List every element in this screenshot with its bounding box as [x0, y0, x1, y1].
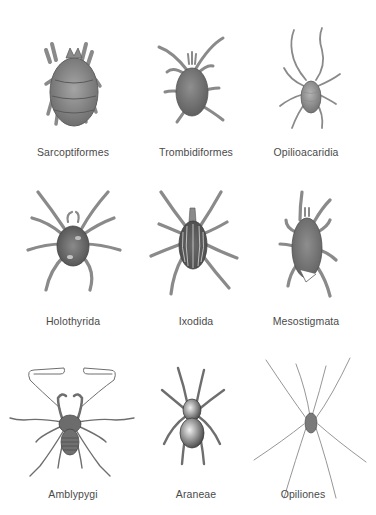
- cell-amblypygi: Amblypygi: [0, 340, 140, 515]
- cell-holothyrida: Holothyrida: [0, 170, 125, 340]
- label-opiliones: Opiliones: [281, 488, 326, 500]
- label-amblypygi: Amblypygi: [48, 488, 97, 500]
- cell-opilioacaridia: Opilioacaridia: [250, 0, 376, 170]
- label-ixodida: Ixodida: [179, 315, 214, 327]
- trombidiformes-mite-icon: [125, 0, 250, 170]
- cell-araneae: Araneae: [140, 340, 240, 515]
- cell-ixodida: Ixodida: [125, 170, 250, 340]
- opilioacaridia-mite-icon: [250, 0, 376, 170]
- label-araneae: Araneae: [176, 488, 216, 500]
- label-sarcoptiformes: Sarcoptiformes: [37, 146, 109, 158]
- label-trombidiformes: Trombidiformes: [159, 146, 233, 158]
- label-opilioacaridia: Opilioacaridia: [273, 146, 338, 158]
- cell-mesostigmata: Mesostigmata: [250, 170, 376, 340]
- label-mesostigmata: Mesostigmata: [273, 315, 340, 327]
- cell-opiliones: Opiliones: [240, 340, 376, 515]
- cell-sarcoptiformes: Sarcoptiformes: [0, 0, 125, 170]
- label-holothyrida: Holothyrida: [46, 315, 100, 327]
- cell-trombidiformes: Trombidiformes: [125, 0, 250, 170]
- sarcoptiformes-mite-icon: [0, 0, 125, 170]
